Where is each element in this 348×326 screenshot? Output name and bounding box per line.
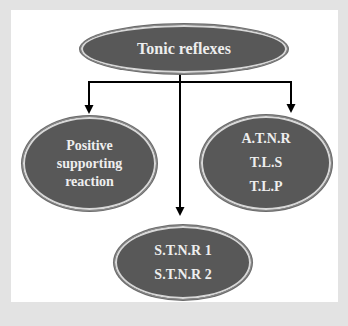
node-label-line: T.L.S xyxy=(250,151,282,175)
node-label-line: A.T.N.R xyxy=(241,127,290,151)
node-label-line: supporting xyxy=(57,155,122,173)
arrowhead-left-icon xyxy=(85,105,94,114)
node-label-line: Positive xyxy=(66,137,113,155)
arrowhead-center-icon xyxy=(176,207,185,216)
node-label-line: reaction xyxy=(65,173,114,191)
node-atnr-tls-tlp: A.T.N.R T.L.S T.L.P xyxy=(200,115,332,211)
node-stnr: S.T.N.R 1 S.T.N.R 2 xyxy=(114,225,252,300)
node-positive-supporting-reaction: Positive supporting reaction xyxy=(22,116,157,211)
arrowhead-right-icon xyxy=(287,104,296,113)
node-tonic-reflexes: Tonic reflexes xyxy=(80,24,288,74)
node-label-line: S.T.N.R 1 xyxy=(154,239,211,263)
node-label-line: T.L.P xyxy=(249,175,282,199)
node-label-line: S.T.N.R 2 xyxy=(154,263,211,287)
node-label: Tonic reflexes xyxy=(137,40,231,58)
